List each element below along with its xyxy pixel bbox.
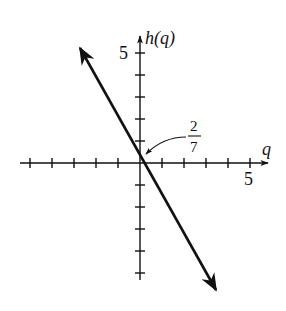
graph-canvas: h(q) q 5 5 2 7 — [0, 0, 286, 311]
y-axis-label: h(q) — [145, 28, 175, 49]
x-tick-label-5: 5 — [244, 169, 253, 189]
y-axis — [135, 36, 145, 280]
intercept-pointer-arrow — [146, 137, 186, 154]
fraction-numerator: 2 — [190, 118, 198, 134]
fraction-denominator: 7 — [190, 139, 198, 155]
x-axis-label: q — [262, 139, 271, 159]
y-tick-label-5: 5 — [119, 43, 128, 63]
function-line — [80, 48, 216, 290]
intercept-fraction-label: 2 7 — [188, 118, 201, 155]
